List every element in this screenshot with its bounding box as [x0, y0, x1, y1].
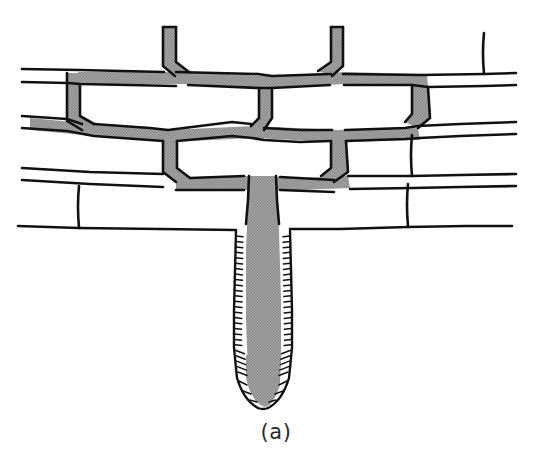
bedline-bottom-right: [408, 226, 512, 227]
bedline-bottom-centre-left: [160, 229, 236, 230]
figure-container: (a): [0, 0, 552, 471]
head-joint-top-right-plain: [483, 33, 484, 74]
masonry-root-diagram: [0, 0, 552, 471]
course2-head-right-plain: [411, 135, 412, 176]
figure-caption: (a): [0, 420, 552, 444]
course3-head-left-plain: [78, 186, 79, 228]
course3-head-right-plain: [407, 184, 408, 226]
root-sheath-outline-tip: [258, 408, 268, 409]
